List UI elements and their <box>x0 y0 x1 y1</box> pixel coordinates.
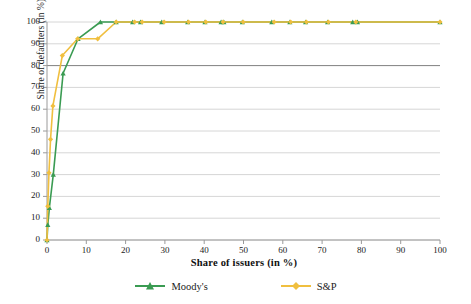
legend-swatch-sp-icon <box>280 280 312 292</box>
data-point-marker <box>45 222 50 227</box>
x-tick-label-20: 20 <box>111 245 141 255</box>
x-tick-label-90: 90 <box>386 245 416 255</box>
x-tick-label-50: 50 <box>229 245 259 255</box>
x-tick-label-30: 30 <box>150 245 180 255</box>
x-tick-label-80: 80 <box>346 245 376 255</box>
y-tick-label-20: 20 <box>16 190 40 200</box>
y-tick-label-30: 30 <box>16 169 40 179</box>
legend-item-moodys[interactable]: Moody's <box>134 280 207 292</box>
x-tick-label-70: 70 <box>307 245 337 255</box>
x-axis-title: Share of issuers (in %) <box>47 257 441 268</box>
legend-swatch-moodys-icon <box>134 280 166 292</box>
data-point-marker <box>48 137 53 142</box>
legend-item-sp[interactable]: S&P <box>280 280 337 292</box>
y-tick-label-10: 10 <box>16 212 40 222</box>
x-tick-label-100: 100 <box>425 245 455 255</box>
x-tick-label-60: 60 <box>268 245 298 255</box>
legend-label-sp: S&P <box>317 281 337 292</box>
axes-group <box>43 22 440 244</box>
chart-legend: Moody's S&P <box>0 280 471 292</box>
data-point-marker <box>61 71 66 76</box>
x-tick-label-40: 40 <box>189 245 219 255</box>
chart-container: 0102030405060708090100 01020304050607080… <box>0 0 471 304</box>
y-axis-title: Share of defaulters (in %) <box>36 0 46 134</box>
data-point-marker <box>50 103 55 108</box>
x-tick-label-0: 0 <box>32 245 62 255</box>
y-tick-label-40: 40 <box>16 147 40 157</box>
gridlines-group <box>47 22 440 240</box>
y-tick-label-0: 0 <box>16 234 40 244</box>
legend-label-moodys: Moody's <box>171 281 207 292</box>
x-tick-label-10: 10 <box>71 245 101 255</box>
